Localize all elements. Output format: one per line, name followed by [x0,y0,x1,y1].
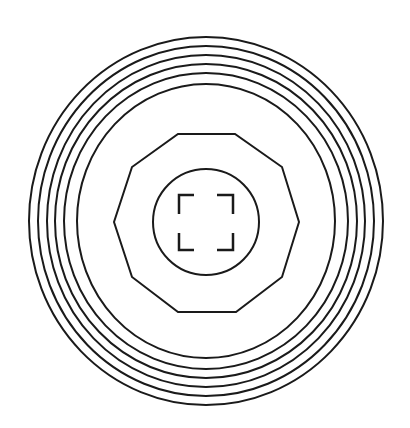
bracket-bottom-left-icon [179,233,194,250]
ring-1 [29,37,383,405]
bracket-top-right-icon [217,195,233,214]
bracket-bottom-right-icon [217,233,233,250]
ring-2 [38,46,374,396]
ring-3 [47,55,365,387]
target-diagram [0,0,410,428]
ring-4 [55,64,357,378]
diagram-canvas [0,0,410,428]
ring-5 [64,73,348,369]
concentric-rings [29,37,383,405]
focus-brackets-icon [179,195,233,250]
bracket-top-left-icon [179,195,194,214]
ring-6 [77,84,335,358]
decagon-shape [114,134,299,312]
inner-circle [153,169,259,275]
